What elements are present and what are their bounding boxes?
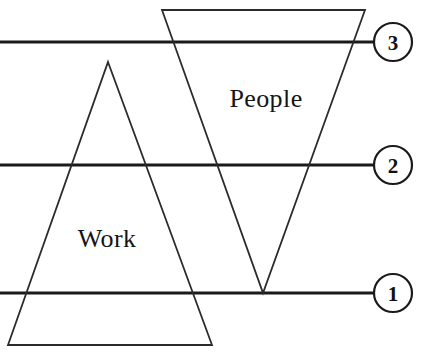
level-number-3: 3 xyxy=(388,31,399,55)
diagram-canvas: People Work 3 2 1 xyxy=(0,0,427,364)
diagram-svg: People Work 3 2 1 xyxy=(0,0,427,364)
level-marker-2[interactable]: 2 xyxy=(374,146,412,184)
level-marker-3[interactable]: 3 xyxy=(374,23,412,61)
level-number-2: 2 xyxy=(388,154,399,178)
level-marker-1[interactable]: 1 xyxy=(374,274,412,312)
people-triangle[interactable] xyxy=(162,10,365,293)
work-label: Work xyxy=(78,224,137,253)
work-triangle[interactable] xyxy=(8,62,212,345)
people-label: People xyxy=(229,84,302,113)
level-number-1: 1 xyxy=(388,282,399,306)
